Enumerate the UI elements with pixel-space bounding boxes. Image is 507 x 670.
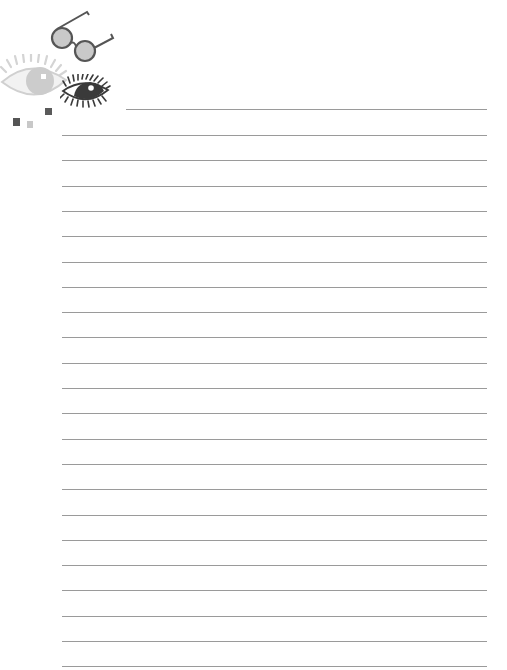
ruled-line (62, 590, 487, 591)
ruled-line (62, 616, 487, 617)
ruled-line (62, 262, 487, 263)
ruled-line (62, 565, 487, 566)
ruled-line (62, 363, 487, 364)
ruled-line (62, 160, 487, 161)
ruled-line (62, 439, 487, 440)
ruled-line (62, 236, 487, 237)
ruled-line (62, 666, 487, 667)
dark-square-2 (45, 108, 52, 115)
ruled-line (62, 287, 487, 288)
ruled-line (62, 464, 487, 465)
ruled-line (62, 515, 487, 516)
ruled-line (62, 186, 487, 187)
dark-square-1 (13, 118, 20, 126)
ruled-line (62, 211, 487, 212)
ruled-line (62, 312, 487, 313)
ruled-line (62, 337, 487, 338)
ruled-line (62, 489, 487, 490)
light-square (27, 121, 33, 128)
ruled-line (62, 540, 487, 541)
ruled-line (62, 641, 487, 642)
ruled-line (62, 135, 487, 136)
notepaper (0, 0, 507, 670)
ruled-line (62, 388, 487, 389)
dark-eye-icon (60, 74, 112, 108)
ruled-line (126, 109, 487, 110)
ruled-line (62, 413, 487, 414)
